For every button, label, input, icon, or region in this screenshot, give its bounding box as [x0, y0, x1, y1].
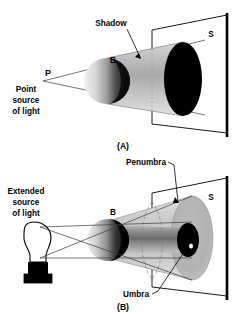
label-umbra: Umbra — [123, 290, 149, 299]
label-screen-s-b: S — [208, 193, 214, 202]
label-extended-source-line-2: source — [13, 198, 40, 207]
label-penumbra: Penumbra — [126, 158, 166, 167]
panel-a: P Point source of light B Shadow S (A) — [12, 13, 227, 151]
caption-panel-b: (B) — [117, 302, 129, 312]
label-point-source-p: P — [45, 68, 51, 78]
label-object-b-b: B — [110, 208, 116, 217]
label-screen-s-a: S — [208, 30, 214, 39]
bulb-socket — [24, 274, 52, 283]
bulb-glass — [24, 222, 51, 262]
light-bulb — [24, 222, 52, 283]
object-b-panel-a — [84, 58, 130, 104]
label-point-source-line-1: Point — [16, 85, 37, 94]
umbra-highlight — [189, 243, 193, 248]
label-extended-source-line-1: Extended — [8, 187, 45, 196]
label-shadow: Shadow — [95, 19, 127, 28]
caption-panel-a: (A) — [117, 141, 129, 151]
umbra-disc — [177, 223, 199, 257]
panel-b: Extended source of light B Penumbra Umbr… — [8, 158, 227, 312]
bulb-base — [28, 262, 48, 274]
label-point-source-line-2: source — [13, 96, 40, 105]
label-object-b-a: B — [110, 56, 116, 65]
label-point-source-line-3: of light — [12, 107, 40, 116]
label-extended-source-line-3: of light — [12, 209, 40, 218]
figure-canvas: P Point source of light B Shadow S (A) — [0, 0, 239, 315]
shadow-disc-a — [164, 42, 202, 116]
shadow-formation-figure: P Point source of light B Shadow S (A) — [0, 0, 239, 315]
